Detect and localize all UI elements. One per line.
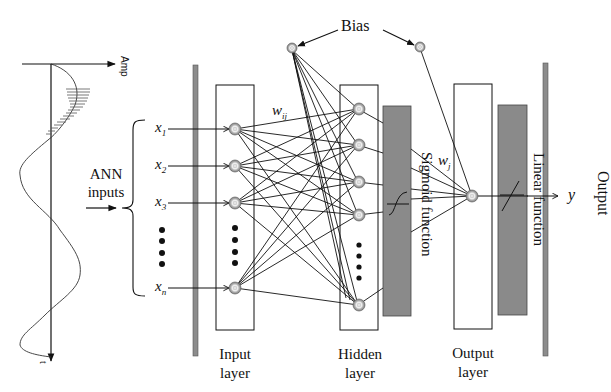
sigmoid-function-box [383, 106, 411, 316]
hidden-node [353, 209, 365, 221]
input-node [229, 197, 241, 209]
input-bar [193, 65, 198, 356]
hidden-node [353, 299, 365, 311]
input-layer-label-1: Input [210, 347, 260, 362]
hidden-layer-box [340, 85, 378, 330]
output-layer-label-1: Output [443, 346, 503, 361]
input-node [229, 123, 241, 135]
hidden-layer-label-2: layer [330, 366, 390, 381]
input-x3: x3 [155, 194, 166, 212]
bias-label: Bias [341, 18, 369, 34]
hidden-layer-label-1: Hidden [330, 347, 390, 362]
weight-wj-label: wj [438, 153, 451, 171]
hidden-node [353, 103, 365, 115]
output-node [466, 190, 478, 202]
sigmoid-function-label: Sigmoid function [419, 152, 434, 257]
input-node [229, 160, 241, 172]
ann-inputs-label-2: inputs [80, 185, 132, 200]
signal-waveform [20, 64, 81, 357]
bias-node-hidden [287, 43, 297, 53]
output-y-label: y [568, 187, 575, 203]
amp-axis-label: Amp [119, 56, 129, 77]
linear-function-label: Linear function [531, 153, 546, 246]
bias-node-output [415, 42, 425, 52]
ann-inputs-label-1: ANN [84, 167, 128, 182]
time-axis-label: t [38, 361, 48, 364]
bias-arrow-output [383, 30, 414, 45]
input-x2: x2 [155, 157, 166, 175]
output-layer-label-2: layer [443, 365, 503, 380]
signal-plot [20, 64, 115, 361]
signal-hatch [46, 89, 90, 134]
hidden-node [353, 139, 365, 151]
input-xn: xn [155, 279, 166, 297]
input-node [229, 282, 241, 294]
output-label: Output [595, 171, 611, 215]
input-layer-label-2: layer [210, 366, 260, 381]
inputs-brace [122, 120, 145, 296]
input-x1: x1 [155, 120, 166, 138]
output-layer-box [454, 84, 492, 329]
weight-wij-label: wij [272, 103, 287, 121]
bias-arrow-hidden [298, 30, 338, 46]
hidden-node [353, 176, 365, 188]
